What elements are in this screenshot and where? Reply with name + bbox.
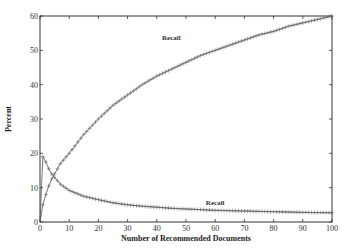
plus-marker — [298, 22, 302, 26]
x-tick-label: 90 — [299, 224, 307, 233]
plus-marker — [292, 23, 296, 27]
plus-marker — [315, 17, 319, 21]
x-axis: 0102030405060708090100 — [38, 16, 338, 233]
plus-marker — [283, 25, 287, 29]
plus-marker — [234, 41, 238, 45]
plus-marker — [251, 35, 255, 39]
plot-frame — [40, 16, 332, 222]
plus-marker — [152, 76, 156, 80]
x-tick-label: 20 — [94, 224, 102, 233]
y-axis: 0102030405060 — [30, 12, 332, 227]
plus-marker — [93, 197, 97, 201]
series-layer — [40, 14, 334, 222]
x-tick-label: 50 — [182, 224, 190, 233]
plus-marker — [222, 45, 226, 49]
plus-marker — [44, 193, 48, 197]
plus-marker — [123, 202, 127, 206]
plus-marker — [301, 21, 305, 25]
x-tick-label: 40 — [153, 224, 161, 233]
series-label: Recall — [206, 199, 225, 207]
plus-marker — [304, 20, 308, 24]
plus-marker — [146, 79, 150, 83]
y-tick-label: 60 — [30, 12, 38, 21]
plus-marker — [260, 32, 264, 36]
y-tick-label: 30 — [30, 115, 38, 124]
plus-marker — [225, 44, 229, 48]
plus-marker — [310, 19, 314, 23]
plus-marker — [105, 200, 109, 204]
plus-marker — [50, 177, 54, 181]
plus-marker — [56, 167, 60, 171]
plus-marker — [321, 16, 325, 20]
plus-marker — [263, 32, 267, 36]
plus-marker — [117, 202, 121, 206]
plus-marker — [120, 202, 124, 206]
plus-marker — [295, 22, 299, 26]
plus-marker — [99, 198, 103, 202]
plus-marker — [242, 38, 246, 42]
plus-marker — [96, 198, 100, 202]
plus-marker — [111, 201, 115, 205]
plus-marker — [237, 40, 241, 44]
plus-marker — [330, 14, 334, 18]
plus-marker — [272, 29, 276, 33]
plot-border — [40, 16, 332, 222]
plus-marker — [245, 37, 249, 41]
plus-marker — [91, 196, 95, 200]
plus-marker — [269, 30, 273, 34]
plus-marker — [207, 50, 211, 54]
x-tick-label: 100 — [326, 224, 338, 233]
plus-marker — [257, 33, 261, 37]
plus-marker — [219, 46, 223, 50]
x-tick-label: 10 — [65, 224, 73, 233]
y-tick-label: 50 — [30, 46, 38, 55]
plus-marker — [228, 43, 232, 47]
plus-marker — [266, 31, 270, 35]
x-tick-label: 80 — [270, 224, 278, 233]
plus-marker — [330, 211, 334, 215]
y-tick-label: 10 — [30, 184, 38, 193]
plus-marker — [277, 27, 281, 31]
plus-marker — [307, 19, 311, 23]
plus-marker — [41, 203, 45, 207]
plus-marker — [289, 24, 293, 28]
plus-marker — [239, 39, 243, 43]
plus-marker — [327, 15, 331, 19]
plus-marker — [88, 196, 92, 200]
plus-marker — [286, 24, 290, 28]
recall-chart: 0102030405060708090100 0102030405060 Rec… — [0, 0, 355, 249]
plus-marker — [312, 18, 316, 22]
plus-marker — [41, 155, 45, 159]
x-tick-label: 60 — [211, 224, 219, 233]
series-labels: RecallRecall — [162, 34, 225, 207]
plus-marker — [318, 17, 322, 21]
series-line — [40, 16, 332, 222]
y-tick-label: 20 — [30, 149, 38, 158]
plus-marker — [108, 200, 112, 204]
series-label: Recall — [162, 34, 181, 42]
x-tick-label: 30 — [124, 224, 132, 233]
series-1 — [40, 14, 334, 222]
plus-marker — [85, 195, 89, 199]
plus-marker — [213, 48, 217, 52]
plus-marker — [210, 49, 214, 53]
plus-marker — [102, 199, 106, 203]
y-tick-label: 0 — [34, 218, 38, 227]
x-axis-label: Number of Recommended Documents — [121, 234, 251, 243]
plus-marker — [44, 160, 48, 164]
series-2 — [40, 155, 334, 222]
plus-marker — [254, 34, 258, 38]
plus-marker — [202, 52, 206, 56]
plus-marker — [231, 42, 235, 46]
plus-marker — [280, 26, 284, 30]
plus-marker — [47, 167, 51, 171]
plus-marker — [149, 78, 153, 82]
x-tick-label: 70 — [240, 224, 248, 233]
y-axis-label: Percent — [4, 106, 13, 132]
y-tick-label: 40 — [30, 81, 38, 90]
x-tick-label: 0 — [38, 224, 42, 233]
plus-marker — [47, 184, 51, 188]
plus-marker — [114, 201, 118, 205]
plus-marker — [204, 51, 208, 55]
plus-marker — [248, 36, 252, 40]
